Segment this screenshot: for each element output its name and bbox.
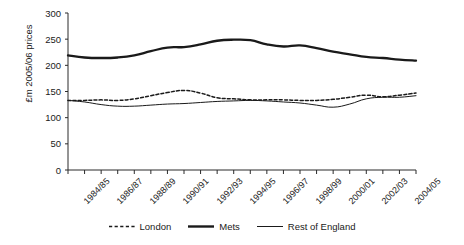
x-axis-ticks bbox=[68, 170, 416, 174]
thick-solid-line-swatch bbox=[188, 222, 214, 231]
legend-item-rest-of-england: Rest of England bbox=[257, 221, 356, 232]
series-line-mets bbox=[68, 40, 416, 61]
plot-area: 050100150200250300 bbox=[0, 0, 464, 245]
series-line-rest-of-england bbox=[68, 96, 416, 108]
y-axis-tick-label: 0 bbox=[56, 165, 61, 176]
y-axis-ticks: 050100150200250300 bbox=[45, 8, 68, 176]
y-axis-tick-label: 150 bbox=[45, 86, 61, 97]
legend-item-london: London bbox=[109, 221, 172, 232]
legend-label-rest-of-england: Rest of England bbox=[288, 221, 356, 232]
y-axis-tick-label: 50 bbox=[50, 138, 61, 149]
y-axis-tick-label: 250 bbox=[45, 34, 61, 45]
legend-label-mets: Mets bbox=[219, 221, 240, 232]
legend-item-mets: Mets bbox=[188, 221, 240, 232]
legend-label-london: London bbox=[140, 221, 172, 232]
y-axis-tick-label: 200 bbox=[45, 60, 61, 71]
y-axis-tick-label: 300 bbox=[45, 8, 61, 19]
chart-legend: London Mets Rest of England bbox=[0, 221, 464, 232]
y-axis-tick-label: 100 bbox=[45, 112, 61, 123]
dashed-line-swatch bbox=[109, 222, 135, 231]
data-series-group bbox=[68, 40, 416, 108]
thin-solid-line-swatch bbox=[257, 222, 283, 231]
line-chart: £m 2005/06 prices 050100150200250300 198… bbox=[0, 0, 464, 245]
